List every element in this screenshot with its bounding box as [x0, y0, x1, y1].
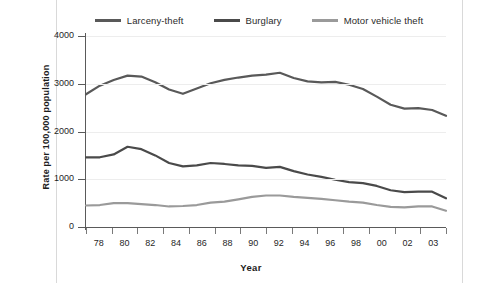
series-line	[86, 73, 446, 116]
gridline	[86, 132, 446, 133]
crime-rate-line-chart: Larceny-theftBurglaryMotor vehicle theft…	[0, 0, 502, 283]
series-line	[86, 195, 446, 210]
series-line	[86, 147, 446, 199]
gridline	[86, 179, 446, 180]
gridline	[86, 36, 446, 37]
series-lines-layer	[0, 0, 502, 283]
gridline	[86, 84, 446, 85]
